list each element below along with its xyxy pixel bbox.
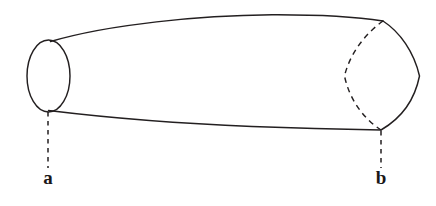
figure-canvas: a b [0,0,436,206]
right-cap-hidden-curve [345,21,384,130]
right-cap-front-curve [381,21,420,130]
label-a: a [43,167,53,188]
left-cross-section-ellipse [27,40,70,112]
tube-bottom-edge [49,111,382,131]
tube-top-edge [51,15,384,42]
label-b: b [376,167,387,188]
tapered-tube-diagram: a b [0,0,436,206]
